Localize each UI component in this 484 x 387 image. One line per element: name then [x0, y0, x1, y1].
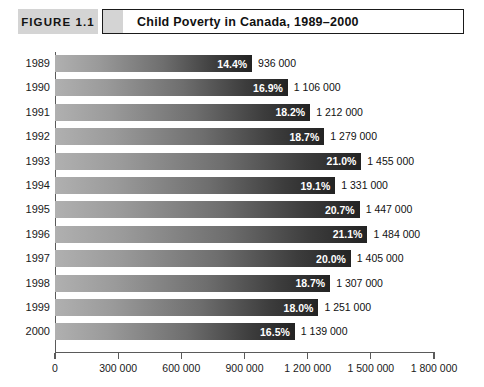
x-axis-tick [181, 353, 182, 359]
bar-1997: 20.0% [55, 250, 351, 267]
bar-percent-label: 18.7% [290, 131, 320, 143]
bar-1992: 18.7% [55, 128, 324, 145]
x-axis-tick-label: 1 200 000 [284, 362, 331, 374]
category-label-1992: 1992 [16, 130, 50, 142]
bar-count-label: 1 447 000 [366, 203, 413, 215]
bar-percent-label: 18.0% [284, 302, 314, 314]
bar-count-label: 1 106 000 [294, 81, 341, 93]
figure-title-box: Child Poverty in Canada, 1989–2000 [102, 9, 464, 34]
x-axis-tick [54, 353, 55, 359]
bar-percent-label: 21.0% [327, 155, 357, 167]
category-label-1990: 1990 [16, 81, 50, 93]
bar-1995: 20.7% [55, 201, 360, 218]
bar-percent-label: 16.5% [260, 326, 290, 338]
figure-number-tag: FIGURE 1.1 [18, 9, 98, 34]
bar-2000: 16.5% [55, 323, 295, 340]
x-axis-tick [433, 353, 434, 359]
bar-count-label: 1 251 000 [324, 301, 371, 313]
bar-1991: 18.2% [55, 104, 310, 121]
category-label-2000: 2000 [16, 325, 50, 337]
bar-1996: 21.1% [55, 226, 367, 243]
bar-1990: 16.9% [55, 79, 288, 96]
category-label-1995: 1995 [16, 203, 50, 215]
x-axis-tick [118, 353, 119, 359]
x-axis-tick-label: 600 000 [162, 362, 200, 374]
x-axis-tick-label: 300 000 [99, 362, 137, 374]
bar-chart: 0300 000600 000900 0001 200 0001 500 000… [0, 50, 484, 387]
bar-percent-label: 21.1% [333, 228, 363, 240]
x-axis-tick-label: 900 000 [226, 362, 264, 374]
x-axis-tick [244, 353, 245, 359]
bar-percent-label: 18.2% [275, 106, 305, 118]
x-axis-tick-label: 0 [52, 362, 58, 374]
bar-count-label: 1 484 000 [373, 228, 420, 240]
bar-1989: 14.4% [55, 55, 252, 72]
bar-1999: 18.0% [55, 299, 318, 316]
title-accent-swatch [103, 10, 123, 33]
x-axis-tick [370, 353, 371, 359]
bar-count-label: 1 212 000 [316, 106, 363, 118]
bar-percent-label: 20.0% [316, 253, 346, 265]
category-label-1996: 1996 [16, 228, 50, 240]
bar-1994: 19.1% [55, 177, 335, 194]
category-label-1997: 1997 [16, 252, 50, 264]
x-axis-tick-label: 1 500 000 [347, 362, 394, 374]
figure-header: FIGURE 1.1 Child Poverty in Canada, 1989… [0, 9, 484, 35]
page-title: Child Poverty in Canada, 1989–2000 [137, 15, 359, 29]
bar-1998: 18.7% [55, 275, 330, 292]
category-label-1991: 1991 [16, 106, 50, 118]
bar-percent-label: 18.7% [295, 277, 325, 289]
bar-count-label: 1 307 000 [336, 277, 383, 289]
bar-count-label: 1 405 000 [357, 252, 404, 264]
bar-percent-label: 14.4% [217, 58, 247, 70]
category-label-1989: 1989 [16, 57, 50, 69]
category-label-1999: 1999 [16, 301, 50, 313]
x-axis-tick-label: 1 800 000 [411, 362, 458, 374]
bar-percent-label: 16.9% [253, 82, 283, 94]
bar-count-label: 1 331 000 [341, 179, 388, 191]
bar-percent-label: 19.1% [300, 180, 330, 192]
bar-count-label: 1 279 000 [330, 130, 377, 142]
bar-count-label: 1 139 000 [301, 325, 348, 337]
category-label-1998: 1998 [16, 277, 50, 289]
bar-count-label: 1 455 000 [367, 155, 414, 167]
bar-percent-label: 20.7% [325, 204, 355, 216]
category-label-1993: 1993 [16, 155, 50, 167]
bar-1993: 21.0% [55, 153, 361, 170]
category-label-1994: 1994 [16, 179, 50, 191]
x-axis-tick [307, 353, 308, 359]
bar-count-label: 936 000 [258, 57, 296, 69]
